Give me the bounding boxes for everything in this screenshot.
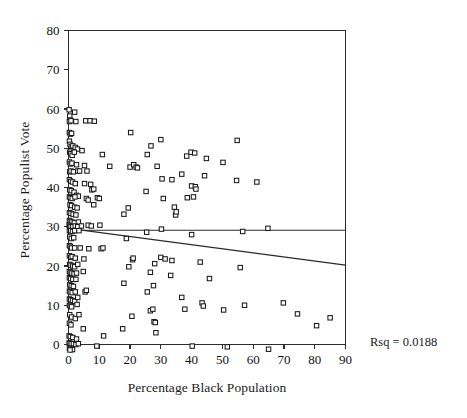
scatter-point (100, 152, 104, 156)
scatter-point (95, 344, 99, 348)
scatter-point (71, 170, 75, 174)
x-tick-label-90: 90 (339, 352, 352, 367)
scatter-point (155, 164, 159, 168)
scatter-point (69, 305, 73, 309)
scatter-point (92, 119, 96, 123)
scatter-point (67, 108, 71, 112)
scatter-plot-figure: 01020304050607080 0102030405060708090 Pe… (0, 0, 467, 418)
scatter-point (82, 257, 86, 261)
x-axis-tick-labels: 0102030405060708090 (65, 352, 352, 367)
scatter-point (85, 169, 89, 173)
scatter-point (108, 164, 112, 168)
scatter-point (127, 265, 131, 269)
scatter-point (74, 337, 78, 341)
scatter-point (86, 198, 90, 202)
scatter-point (74, 119, 78, 123)
scatter-point (120, 327, 124, 331)
scatter-point (153, 320, 157, 324)
scatter-point (97, 196, 101, 200)
scatter-point (170, 177, 174, 181)
scatter-point (92, 187, 96, 191)
scatter-point (314, 323, 318, 327)
scatter-point (328, 316, 332, 320)
scatter-point (172, 205, 176, 209)
scatter-point (180, 295, 184, 299)
y-tick-label-60: 60 (47, 102, 60, 117)
scatter-point (191, 195, 195, 199)
x-axis-title: Percentage Black Population (128, 380, 287, 395)
trend-lines (69, 228, 346, 265)
scatter-point (73, 290, 77, 294)
scatter-point (194, 187, 198, 191)
y-tick-label-80: 80 (47, 23, 60, 38)
scatter-point (74, 163, 78, 167)
scatter-point (72, 150, 76, 154)
scatter-point (281, 301, 285, 305)
y-tick-label-70: 70 (47, 62, 60, 77)
scatter-point (168, 273, 172, 277)
scatter-point (145, 152, 149, 156)
x-tick-label-60: 60 (247, 352, 260, 367)
scatter-point (76, 342, 80, 346)
scatter-point (151, 307, 155, 311)
scatter-point (198, 260, 202, 264)
x-tick-label-40: 40 (185, 352, 198, 367)
x-tick-label-30: 30 (154, 352, 167, 367)
scatter-point (74, 271, 78, 275)
scatter-point (80, 148, 84, 152)
scatter-point (184, 154, 188, 158)
scatter-point (77, 312, 81, 316)
y-tick-label-20: 20 (47, 259, 60, 274)
scatter-point (77, 228, 81, 232)
scatter-point (98, 223, 102, 227)
scatter-point (149, 144, 153, 148)
rsq-annotation: Rsq = 0.0188 (370, 335, 437, 349)
scatter-point (152, 261, 156, 265)
plot-canvas: 01020304050607080 0102030405060708090 Pe… (0, 0, 467, 418)
regression-line (69, 228, 346, 265)
scatter-point (78, 246, 82, 250)
scatter-point (87, 247, 91, 251)
scatter-point (234, 178, 238, 182)
scatter-point (170, 258, 174, 262)
scatter-point (74, 213, 78, 217)
y-tick-label-50: 50 (47, 141, 60, 156)
x-tick-label-0: 0 (65, 352, 72, 367)
scatter-point (72, 110, 76, 114)
scatter-point (73, 181, 77, 185)
scatter-point (69, 131, 73, 135)
scatter-point (295, 312, 299, 316)
scatter-point (128, 130, 132, 134)
scatter-point (242, 303, 246, 307)
scatter-point (185, 196, 189, 200)
y-tick-label-0: 0 (53, 337, 60, 352)
scatter-point (255, 180, 259, 184)
scatter-point (76, 295, 80, 299)
scatter-point (145, 290, 149, 294)
scatter-point (124, 236, 128, 240)
scatter-point (174, 210, 178, 214)
x-tick-label-70: 70 (277, 352, 290, 367)
scatter-point (72, 236, 76, 240)
scatter-point (202, 174, 206, 178)
scatter-point (88, 119, 92, 123)
scatter-point (159, 137, 163, 141)
scatter-point (68, 348, 72, 352)
scatter-point (151, 283, 155, 287)
scatter-point (70, 161, 74, 165)
scatter-point (73, 256, 77, 260)
scatter-point (69, 323, 73, 327)
y-axis-tick-labels: 01020304050607080 (47, 23, 60, 352)
scatter-point (241, 229, 245, 233)
scatter-point (159, 255, 163, 259)
scatter-point (84, 119, 88, 123)
scatter-point (225, 345, 229, 349)
scatter-point (82, 163, 86, 167)
scatter-point (72, 246, 76, 250)
y-axis-title: Percentage Populist Vote (17, 122, 32, 259)
scatter-point (161, 196, 165, 200)
scatter-point (154, 331, 158, 335)
scatter-point (89, 224, 93, 228)
y-tick-label-30: 30 (47, 219, 60, 234)
scatter-point (92, 203, 96, 207)
